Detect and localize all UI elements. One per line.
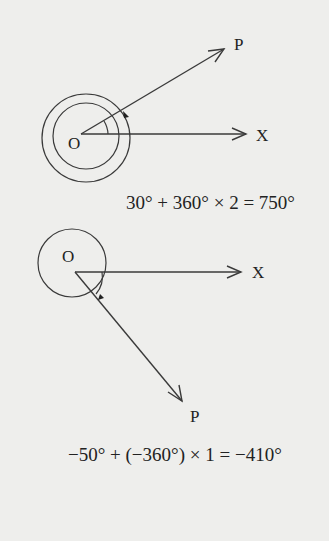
x-axis-label: X (256, 127, 268, 144)
ray-op (75, 272, 182, 401)
ray-op (81, 49, 224, 134)
rotation-arrow-tip (98, 294, 104, 300)
angle-arc (104, 121, 108, 134)
diagram-1 (42, 49, 246, 182)
origin-label: O (68, 135, 80, 152)
point-p-label: P (234, 36, 243, 53)
inner-rotation-circle (53, 103, 119, 169)
equation-2: −50° + (−360°) × 1 = −410° (68, 445, 282, 464)
rotation-arrow-tip (123, 111, 129, 118)
x-axis-label: X (252, 264, 264, 281)
origin-label: O (62, 248, 74, 265)
point-p-label: P (190, 408, 199, 425)
equation-1: 30° + 360° × 2 = 750° (126, 193, 295, 212)
